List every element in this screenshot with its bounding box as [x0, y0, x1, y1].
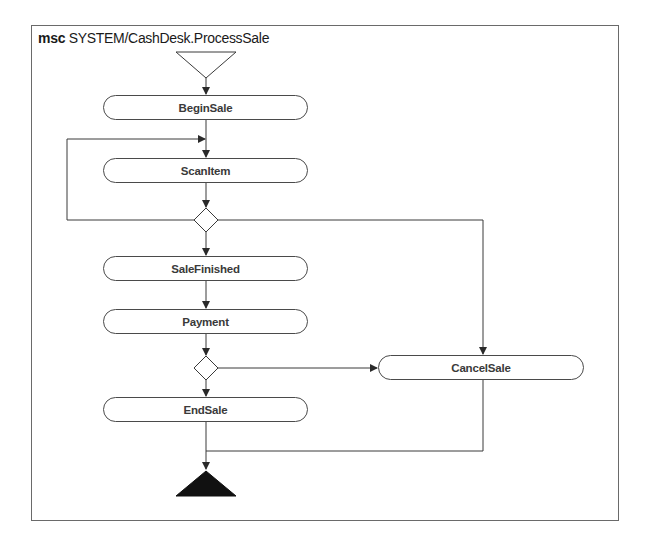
node-label: BeginSale	[179, 102, 233, 114]
node-cancel-sale[interactable]: CancelSale	[378, 355, 584, 380]
diagram-canvas: msc SYSTEM/CashDesk.ProcessSale	[0, 0, 651, 545]
start-node-icon	[176, 52, 236, 78]
end-node-icon	[176, 471, 236, 496]
decision-1-icon	[194, 208, 218, 232]
decision-2-icon	[194, 356, 218, 380]
node-label: CancelSale	[451, 362, 510, 374]
node-label: Payment	[182, 316, 229, 328]
node-end-sale[interactable]: EndSale	[103, 397, 308, 422]
node-begin-sale[interactable]: BeginSale	[103, 95, 308, 120]
node-label: ScanItem	[181, 165, 231, 177]
node-payment[interactable]: Payment	[103, 309, 308, 334]
connectors	[0, 0, 651, 545]
node-label: SaleFinished	[171, 263, 240, 275]
node-sale-finished[interactable]: SaleFinished	[103, 256, 308, 281]
node-label: EndSale	[184, 404, 228, 416]
node-scan-item[interactable]: ScanItem	[103, 158, 308, 183]
